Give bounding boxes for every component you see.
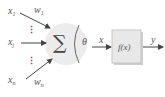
weight-label-n: wn xyxy=(34,77,44,90)
ellipsis-upper: ⋮ xyxy=(27,25,36,35)
summation-symbol: ∑ xyxy=(53,33,67,52)
weight-label-1: w1 xyxy=(34,5,44,18)
input-label-n: xn xyxy=(8,75,15,88)
output-label: y xyxy=(151,35,155,45)
intermediate-label: x xyxy=(99,35,103,45)
neuron-diagram: x1 w1 xj xn wn ⋮ ⋮ ∑ θ x f(x) y xyxy=(0,0,165,97)
ellipsis-lower: ⋮ xyxy=(27,56,36,66)
activation-label: f(x) xyxy=(118,42,131,52)
diagram-canvas xyxy=(0,0,165,97)
threshold-symbol: θ xyxy=(82,36,87,47)
input-label-j: xj xyxy=(8,37,14,50)
input-label-1: x1 xyxy=(8,6,15,19)
